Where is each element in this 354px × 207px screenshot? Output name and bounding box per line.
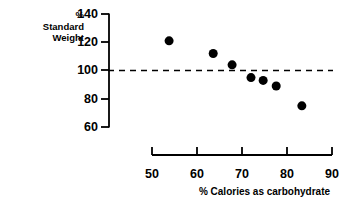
data-point [209,49,218,58]
x-axis [152,147,332,155]
plot-canvas [0,0,354,207]
scatter-plot-figure: % Standard Weight 140 120 100 80 60 50 6… [0,0,354,207]
y-axis [101,14,109,128]
data-point [165,36,174,45]
data-point [259,76,268,85]
data-points-layer [165,36,307,110]
data-point [228,60,237,69]
data-point [247,73,256,82]
data-point [297,101,306,110]
data-point [272,82,281,91]
